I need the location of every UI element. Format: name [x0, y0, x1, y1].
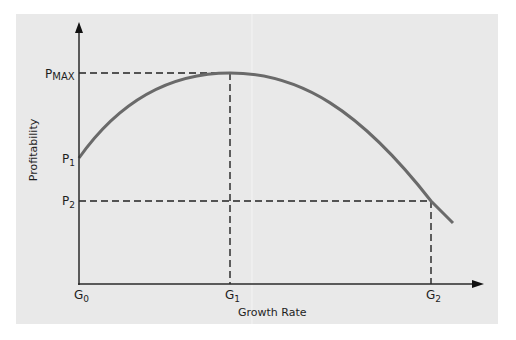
x-axis-title: Growth Rate — [238, 306, 307, 319]
chart-panel — [16, 14, 498, 324]
profitability-diagram: PMAX P1 P2 G0 G1 G2 Growth Rate Profitab… — [0, 0, 516, 340]
y-axis-title: Profitability — [27, 118, 40, 181]
